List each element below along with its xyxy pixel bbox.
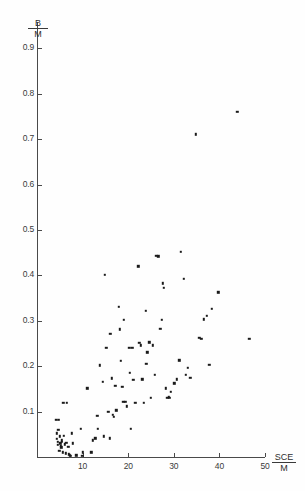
data-point xyxy=(72,442,74,444)
data-points-layer xyxy=(0,0,305,491)
data-point xyxy=(141,378,143,380)
data-point xyxy=(58,419,60,421)
data-point xyxy=(132,379,134,381)
data-point xyxy=(90,451,92,453)
data-point xyxy=(194,133,196,135)
data-point xyxy=(114,385,116,387)
data-point xyxy=(115,409,117,411)
data-point xyxy=(129,371,131,373)
data-point xyxy=(57,444,59,446)
x-axis-tick xyxy=(83,453,84,457)
data-point xyxy=(187,367,189,369)
y-axis-label: B M xyxy=(28,18,48,39)
y-axis-tick xyxy=(38,48,42,49)
data-point xyxy=(152,344,154,346)
data-point xyxy=(108,437,110,439)
data-point xyxy=(111,377,113,379)
data-point xyxy=(86,387,88,389)
y-axis-tick xyxy=(38,412,42,413)
data-point xyxy=(189,377,191,379)
y-axis-tick-label: 0.3 xyxy=(13,316,34,325)
data-point xyxy=(248,337,250,339)
data-point xyxy=(56,440,58,442)
x-axis-tick xyxy=(174,453,175,457)
data-point xyxy=(60,445,62,447)
data-point xyxy=(123,319,125,321)
data-point xyxy=(131,347,133,349)
y-axis-tick xyxy=(38,275,42,276)
data-point xyxy=(184,374,186,376)
data-point xyxy=(155,255,157,257)
data-point xyxy=(121,385,123,387)
data-point xyxy=(130,428,132,430)
data-point xyxy=(61,451,63,453)
data-point xyxy=(175,378,177,380)
y-axis-tick xyxy=(38,321,42,322)
data-point xyxy=(118,306,120,308)
data-point xyxy=(198,337,200,339)
data-point xyxy=(205,315,207,317)
data-point xyxy=(200,338,202,340)
data-point xyxy=(63,434,65,436)
data-point xyxy=(61,441,63,443)
y-axis-line xyxy=(37,22,38,457)
data-point xyxy=(162,282,164,284)
x-axis-label: SCE M xyxy=(272,452,296,473)
y-axis-tick-label: 0.6 xyxy=(13,180,34,189)
data-point xyxy=(60,446,62,448)
data-point xyxy=(111,414,113,416)
data-point xyxy=(70,432,72,434)
data-point xyxy=(60,439,62,441)
data-point xyxy=(99,364,101,366)
data-point xyxy=(159,328,161,330)
data-point xyxy=(145,363,147,365)
x-axis-label-numerator: SCE xyxy=(272,452,296,463)
y-axis-tick xyxy=(38,366,42,367)
data-point xyxy=(55,432,57,434)
x-axis-tick-label: 10 xyxy=(74,462,92,471)
data-point xyxy=(217,291,219,293)
x-axis-tick-label: 50 xyxy=(256,462,274,471)
y-axis-tick-label: 0.9 xyxy=(13,43,34,52)
x-axis-tick xyxy=(128,453,129,457)
y-axis-label-numerator: B xyxy=(28,18,48,29)
data-point xyxy=(163,286,165,288)
data-point xyxy=(75,454,77,456)
data-point xyxy=(113,415,115,417)
data-point xyxy=(96,414,98,416)
y-axis-tick-label: 0.5 xyxy=(13,225,34,234)
y-axis-tick-label: 0.4 xyxy=(13,270,34,279)
data-point xyxy=(58,450,60,452)
data-point xyxy=(138,341,140,343)
data-point xyxy=(144,310,146,312)
data-point xyxy=(59,435,61,437)
data-point xyxy=(80,428,82,430)
data-point xyxy=(91,439,93,441)
data-point xyxy=(153,374,155,376)
y-axis-tick xyxy=(38,94,42,95)
x-axis-tick xyxy=(219,453,220,457)
data-point xyxy=(211,308,213,310)
data-point xyxy=(140,344,142,346)
data-point xyxy=(120,360,122,362)
x-axis-tick xyxy=(265,453,266,457)
x-axis-line xyxy=(37,457,265,458)
y-axis-tick xyxy=(38,185,42,186)
data-point xyxy=(164,387,166,389)
data-point xyxy=(178,359,180,361)
data-point xyxy=(161,319,163,321)
y-axis-label-denominator: M xyxy=(28,29,48,39)
data-point xyxy=(56,438,58,440)
data-point xyxy=(168,396,170,398)
data-point xyxy=(126,405,128,407)
x-axis-tick-label: 20 xyxy=(119,462,137,471)
data-point xyxy=(101,381,103,383)
data-point xyxy=(148,341,150,343)
data-point xyxy=(137,265,139,267)
data-point xyxy=(134,401,136,403)
scatter-plot-figure: B M SCE M 0.10.20.30.40.50.60.70.80.9102… xyxy=(0,0,305,491)
data-point xyxy=(68,453,70,455)
data-point xyxy=(105,346,107,348)
data-point xyxy=(109,332,111,334)
data-point xyxy=(122,401,124,403)
